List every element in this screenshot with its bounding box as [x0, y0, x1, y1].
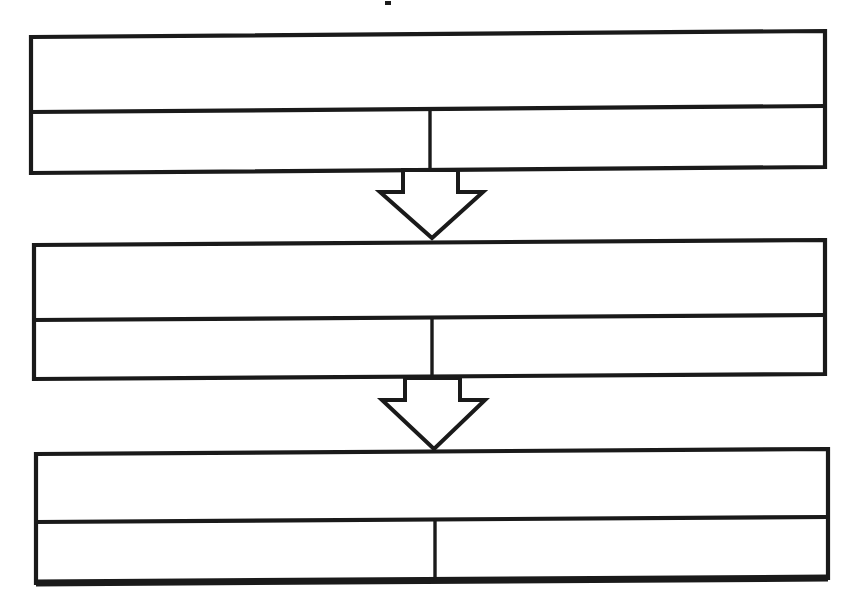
stage-3-base-rule [36, 578, 828, 583]
arrow-stage-1-to-stage-2[interactable] [380, 170, 483, 238]
arrow-down-icon [380, 170, 483, 238]
stage-box-1[interactable] [31, 31, 825, 173]
arrow-stage-2-to-stage-3[interactable] [382, 378, 485, 449]
stage-box-2[interactable] [34, 240, 825, 379]
diagram-svg [0, 0, 860, 613]
stage-1-row-divider [31, 106, 825, 112]
arrow-down-icon [382, 378, 485, 449]
stage-3-row-divider [36, 517, 828, 522]
stage-2-outline [34, 240, 825, 379]
stage-1-outline [31, 31, 825, 173]
diagram-canvas [0, 0, 860, 613]
cropped-title-remnant [385, 1, 391, 5]
stage-box-3[interactable] [36, 449, 828, 583]
stage-2-row-divider [34, 315, 825, 320]
